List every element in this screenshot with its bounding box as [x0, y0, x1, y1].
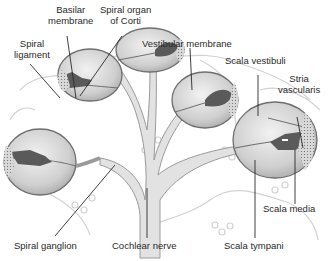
label-spiral-organ-of-corti: Spiral organ of Corti	[100, 4, 151, 26]
label-cochlear-nerve: Cochlear nerve	[112, 240, 176, 251]
label-basilar-membrane-line2: membrane	[48, 15, 93, 26]
label-scala-tympani: Scala tympani	[224, 240, 284, 251]
cochlear-turn-upper-left	[58, 49, 122, 101]
label-scala-vestibuli: Scala vestibuli	[225, 55, 286, 66]
label-stria-vascularis-line1: Stria	[278, 73, 320, 84]
cochlea-diagram: Basilar membrane Spiral organ of Corti S…	[0, 0, 329, 261]
label-scala-media: Scala media	[263, 203, 315, 214]
cochlear-turn-right	[233, 102, 317, 178]
cochlear-turn-middle	[172, 72, 238, 128]
label-basilar-membrane-line1: Basilar	[48, 4, 93, 15]
label-spiral-ligament-line2: ligament	[14, 49, 50, 60]
label-basilar-membrane: Basilar membrane	[48, 4, 93, 26]
label-spiral-organ-line1: Spiral organ	[100, 4, 151, 15]
label-spiral-ligament-line1: Spiral	[14, 38, 50, 49]
label-spiral-ganglion: Spiral ganglion	[14, 240, 77, 251]
label-spiral-organ-line2: of Corti	[100, 15, 151, 26]
label-vestibular-membrane: Vestibular membrane	[142, 38, 232, 49]
label-spiral-ligament: Spiral ligament	[14, 38, 50, 60]
label-stria-vascularis: Stria vascularis	[278, 73, 320, 95]
label-stria-vascularis-line2: vascularis	[278, 84, 320, 95]
cochlear-turn-lower-left	[4, 129, 100, 195]
cochlear-turn-upper-center	[116, 28, 185, 72]
